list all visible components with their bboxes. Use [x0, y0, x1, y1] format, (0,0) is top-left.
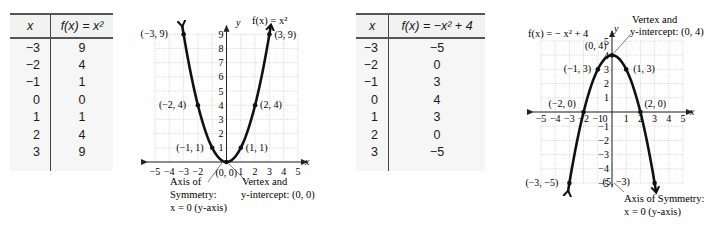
- axis-label-y: y: [613, 23, 619, 34]
- svg-text:x = 0 (y-axis): x = 0 (y-axis): [624, 206, 681, 218]
- point-label: (−1, 3): [564, 63, 591, 75]
- point-label: (0, 4): [585, 40, 607, 52]
- axes: [147, 26, 307, 162]
- svg-text:x = 0 (y-axis): x = 0 (y-axis): [170, 202, 227, 214]
- svg-text:−3: −3: [564, 113, 575, 124]
- data-point: [239, 146, 244, 151]
- svg-text:y-intercept: (0, 4): y-intercept: (0, 4): [630, 26, 704, 38]
- function-label: f(x) = − x² + 4: [528, 28, 589, 40]
- svg-text:1: 1: [624, 113, 629, 124]
- svg-text:1: 1: [604, 92, 609, 103]
- axis-label-x: x: [689, 106, 695, 117]
- svg-text:1: 1: [219, 142, 224, 153]
- svg-text:Vertex and: Vertex and: [632, 14, 678, 25]
- point-label: (−3, −5): [525, 177, 558, 189]
- point-label: (−2, 0): [549, 98, 576, 110]
- data-point: [638, 110, 643, 115]
- function-label: f(x) = x²: [252, 15, 287, 27]
- data-point: [652, 181, 657, 186]
- svg-text:3: 3: [604, 64, 609, 75]
- svg-text:−2: −2: [598, 135, 609, 146]
- parabola-graphs: −5−4−3−212345123456789 (−3, 9)(−2, 4)(−1…: [0, 0, 722, 229]
- svg-text:3: 3: [219, 114, 224, 125]
- data-point: [224, 160, 229, 165]
- axis-label-x: x: [304, 156, 310, 167]
- svg-text:5: 5: [219, 86, 224, 97]
- point-label: (1, 1): [246, 142, 268, 154]
- data-point: [624, 67, 629, 72]
- svg-text:−5: −5: [536, 113, 547, 124]
- svg-text:Symmetry:: Symmetry:: [170, 189, 217, 200]
- svg-text:6: 6: [219, 71, 224, 82]
- data-point: [210, 146, 215, 151]
- annotation-vertex: Vertex and y-intercept: (0, 0): [241, 176, 315, 201]
- annotation-leader-vertex: [614, 34, 631, 53]
- data-point: [253, 103, 258, 108]
- point-label: (2, 0): [644, 98, 666, 110]
- svg-text:4: 4: [666, 113, 671, 124]
- graph-neg-x-squared-plus-4: −5−4−3−2−1012345−5−4−3−2−112345 (−3, −5)…: [525, 14, 704, 218]
- data-point: [581, 110, 586, 115]
- svg-text:5: 5: [296, 166, 301, 177]
- point-label: (3, 9): [274, 29, 296, 41]
- svg-text:3: 3: [652, 113, 657, 124]
- svg-text:−3: −3: [598, 149, 609, 160]
- svg-text:−1: −1: [598, 121, 609, 132]
- axis-label-y: y: [235, 17, 241, 28]
- svg-text:−5: −5: [150, 166, 161, 177]
- svg-text:7: 7: [219, 57, 224, 68]
- annotation-vertex: Vertex and y-intercept: (0, 4): [630, 14, 704, 38]
- svg-text:Axis of Symmetry:: Axis of Symmetry:: [624, 193, 705, 204]
- svg-text:Vertex and: Vertex and: [242, 176, 288, 187]
- point-label: (2, 4): [260, 99, 282, 111]
- data-point: [196, 103, 201, 108]
- point-label: (5, −3): [603, 176, 630, 188]
- data-point: [596, 67, 601, 72]
- svg-text:−4: −4: [598, 163, 609, 174]
- data-point: [567, 181, 572, 186]
- graph-x-squared: −5−4−3−212345123456789 (−3, 9)(−2, 4)(−1…: [141, 15, 316, 214]
- svg-text:9: 9: [219, 29, 224, 40]
- svg-text:−4: −4: [550, 113, 561, 124]
- svg-text:y-intercept: (0, 0): y-intercept: (0, 0): [241, 189, 315, 201]
- annotation-axis-of-symmetry: Axis of Symmetry: x = 0 (y-axis): [624, 193, 705, 218]
- svg-text:Axis of: Axis of: [170, 176, 202, 187]
- data-point: [267, 32, 272, 37]
- data-point: [610, 53, 615, 58]
- data-point: [181, 32, 186, 37]
- svg-text:4: 4: [219, 100, 224, 111]
- point-label: (−2, 4): [159, 99, 186, 111]
- point-label: (−1, 1): [176, 142, 203, 154]
- annotation-axis-of-symmetry: Axis of Symmetry: x = 0 (y-axis): [170, 176, 227, 214]
- svg-text:2: 2: [604, 78, 609, 89]
- point-label: (−3, 9): [141, 28, 168, 40]
- svg-text:2: 2: [219, 128, 224, 139]
- svg-text:8: 8: [219, 43, 224, 54]
- svg-text:5: 5: [681, 113, 686, 124]
- point-label: (1, 3): [633, 63, 655, 75]
